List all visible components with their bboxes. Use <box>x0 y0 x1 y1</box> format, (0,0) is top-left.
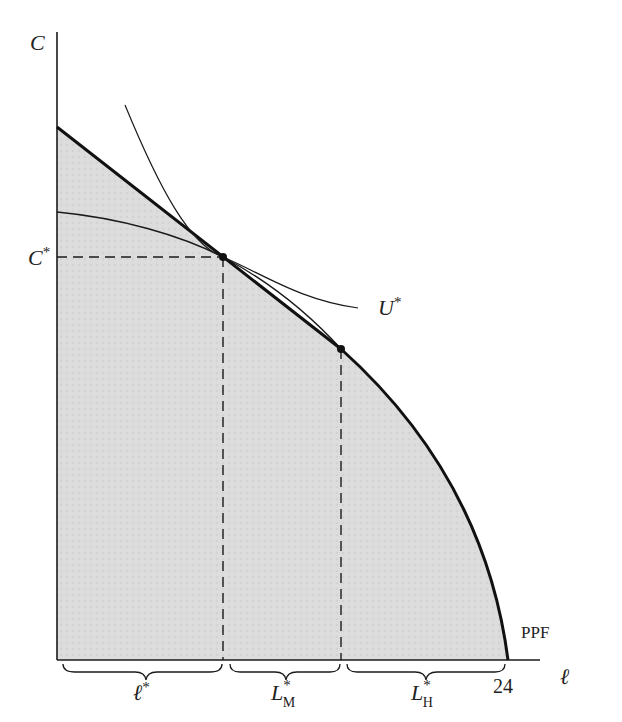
segment-label-lm: L*M <box>270 677 296 710</box>
market-household-switch-point <box>337 345 345 353</box>
c-star-label: C* <box>28 244 50 270</box>
feasible-region <box>57 127 508 660</box>
optimum-point <box>219 253 227 261</box>
x-axis-label: ℓ <box>560 664 570 689</box>
ppf-diagram: C ℓ 24 C* U* PPF ℓ* L*M L*H <box>0 0 622 722</box>
segment-label-ell-star: ℓ* <box>133 679 150 705</box>
indifference-label: U* <box>378 294 401 320</box>
x-max-label: 24 <box>493 675 513 697</box>
ppf-label: PPF <box>521 623 549 642</box>
y-axis-label: C <box>30 30 45 55</box>
brace-ell-star <box>63 664 222 680</box>
segment-label-lh: L*H <box>410 677 433 710</box>
